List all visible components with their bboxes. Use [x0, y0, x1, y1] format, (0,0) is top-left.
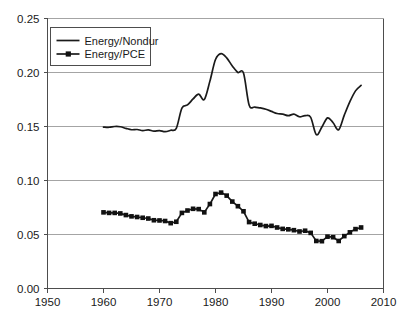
data-point-marker [297, 229, 302, 234]
x-tick-label: 1990 [259, 296, 285, 308]
x-tick-label: 1980 [203, 296, 229, 308]
chart-legend: Energy/NondurEnergy/PCE [51, 28, 159, 66]
data-point-marker [101, 210, 106, 215]
data-point-marker [152, 218, 157, 223]
x-tick-label: 2000 [315, 296, 341, 308]
data-point-marker [107, 211, 112, 216]
legend-square-marker-icon [66, 51, 71, 56]
data-point-marker [269, 224, 274, 229]
data-point-marker [191, 207, 196, 212]
y-tick-label: 0.15 [17, 121, 39, 133]
legend-label: Energy/Nondur [85, 35, 159, 47]
data-point-marker [292, 228, 297, 233]
data-point-marker [124, 213, 129, 218]
y-tick-label: 0.20 [17, 67, 39, 79]
data-point-marker [258, 223, 263, 228]
data-point-marker [213, 192, 218, 197]
data-point-marker [252, 221, 257, 226]
data-point-marker [140, 215, 145, 220]
data-point-marker [348, 230, 353, 235]
energy-share-line-chart: 0.000.050.100.150.200.25 195019601970198… [0, 0, 405, 319]
data-point-marker [135, 215, 140, 220]
data-point-marker [247, 220, 252, 225]
data-point-marker [174, 219, 179, 224]
data-point-marker [196, 207, 201, 212]
data-point-marker [336, 239, 341, 244]
data-point-marker [219, 190, 224, 195]
data-point-marker [331, 235, 336, 240]
data-point-marker [325, 234, 330, 239]
x-tick-label: 1960 [91, 296, 117, 308]
data-point-marker [241, 209, 246, 214]
legend-label: Energy/PCE [85, 48, 146, 60]
y-tick-label: 0.00 [17, 283, 39, 295]
data-point-marker [185, 208, 190, 213]
data-point-marker [230, 199, 235, 204]
data-point-marker [275, 225, 280, 230]
data-point-marker [129, 214, 134, 219]
data-point-marker [286, 227, 291, 232]
data-point-marker [320, 239, 325, 244]
data-point-marker [308, 231, 313, 236]
data-point-marker [280, 227, 285, 232]
data-point-marker [168, 221, 173, 226]
y-tick-label: 0.05 [17, 229, 39, 241]
chart-figure: 0.000.050.100.150.200.25 195019601970198… [0, 0, 405, 319]
data-point-marker [264, 224, 269, 229]
data-point-marker [314, 239, 319, 244]
data-point-marker [224, 193, 229, 198]
x-tick-label: 1950 [35, 296, 61, 308]
data-point-marker [202, 210, 207, 215]
data-point-marker [146, 216, 151, 221]
data-point-marker [163, 219, 168, 224]
data-point-marker [303, 228, 308, 233]
data-point-marker [112, 211, 117, 216]
data-point-marker [359, 225, 364, 230]
y-tick-label: 0.10 [17, 175, 39, 187]
x-tick-label: 2010 [371, 296, 397, 308]
data-point-marker [208, 202, 213, 207]
data-point-marker [157, 218, 162, 223]
data-point-marker [353, 227, 358, 232]
data-point-marker [118, 211, 123, 216]
data-point-marker [180, 211, 185, 216]
x-tick-label: 1970 [147, 296, 173, 308]
y-tick-label: 0.25 [17, 13, 39, 25]
data-point-marker [342, 234, 347, 239]
data-point-marker [236, 204, 241, 209]
